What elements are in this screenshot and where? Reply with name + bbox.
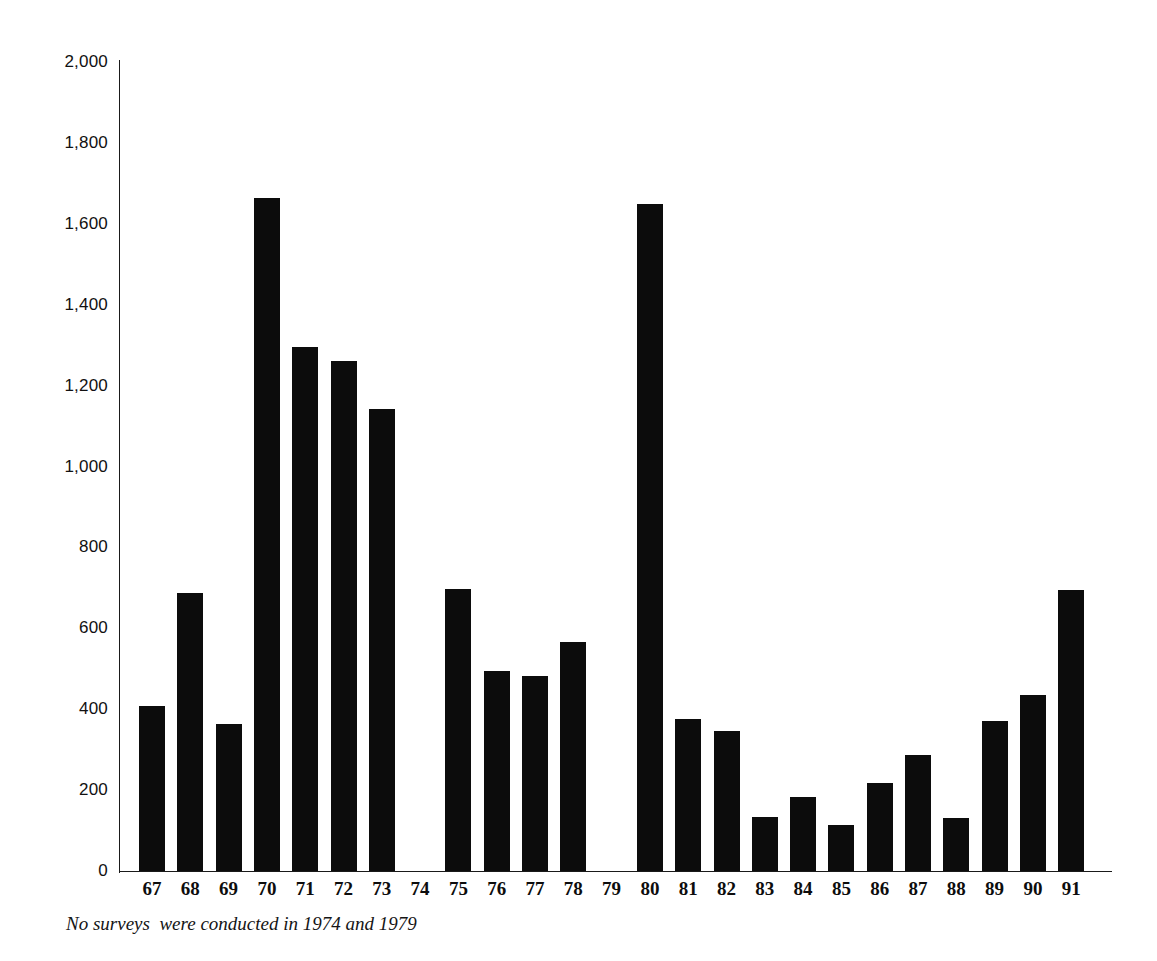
bar <box>369 409 395 871</box>
x-axis-tick: 73 <box>363 877 401 903</box>
x-axis-tick: 71 <box>286 877 324 903</box>
x-axis-tick: 76 <box>478 877 516 903</box>
x-axis-tick: 72 <box>324 877 362 903</box>
x-axis-tick: 82 <box>707 877 745 903</box>
bar-chart-figure: 02004006008001,0001,2001,4001,6001,8002,… <box>0 0 1157 961</box>
bar <box>522 676 548 871</box>
plot-area: 02004006008001,0001,2001,4001,6001,8002,… <box>0 0 1157 961</box>
x-axis-tick-label: 85 <box>822 877 860 901</box>
bar <box>790 797 816 871</box>
x-axis-tick-label: 69 <box>209 877 247 901</box>
x-axis-tick-label: 87 <box>899 877 937 901</box>
x-axis-tick-label: 83 <box>746 877 784 901</box>
x-axis-tick-label: 73 <box>363 877 401 901</box>
x-axis-tick: 86 <box>861 877 899 903</box>
bar <box>905 755 931 871</box>
x-axis-tick: 80 <box>631 877 669 903</box>
x-axis-tick: 91 <box>1052 877 1090 903</box>
x-axis-tick-label: 89 <box>975 877 1013 901</box>
x-axis-tick-label: 75 <box>439 877 477 901</box>
x-axis-tick-label: 82 <box>707 877 745 901</box>
x-axis-tick-label: 71 <box>286 877 324 901</box>
bar <box>484 671 510 871</box>
x-axis-tick: 68 <box>171 877 209 903</box>
bar <box>139 706 165 871</box>
x-axis-tick-label: 77 <box>516 877 554 901</box>
x-axis-tick: 74 <box>401 877 439 903</box>
x-axis-tick: 84 <box>784 877 822 903</box>
x-axis-tick-label: 86 <box>861 877 899 901</box>
x-axis-tick: 88 <box>937 877 975 903</box>
bar <box>637 204 663 871</box>
x-axis-tick: 67 <box>133 877 171 903</box>
x-axis-tick-label: 79 <box>592 877 630 901</box>
x-axis-tick: 89 <box>975 877 1013 903</box>
bar <box>292 347 318 871</box>
x-axis-tick-label: 84 <box>784 877 822 901</box>
bar <box>982 721 1008 871</box>
x-axis-tick: 90 <box>1014 877 1052 903</box>
bar <box>216 724 242 871</box>
bars-layer <box>0 0 1157 961</box>
x-axis-tick-label: 68 <box>171 877 209 901</box>
chart-footnote: No surveys were conducted in 1974 and 19… <box>66 912 417 936</box>
x-axis-tick-label: 76 <box>478 877 516 901</box>
x-axis-tick: 87 <box>899 877 937 903</box>
bar <box>943 818 969 871</box>
x-axis-tick-label: 80 <box>631 877 669 901</box>
x-axis-tick-label: 81 <box>669 877 707 901</box>
x-axis-tick-label: 91 <box>1052 877 1090 901</box>
bar <box>828 825 854 871</box>
x-axis-tick: 75 <box>439 877 477 903</box>
bar <box>714 731 740 871</box>
x-axis-tick-label: 74 <box>401 877 439 901</box>
x-axis-tick: 70 <box>248 877 286 903</box>
x-axis-tick: 79 <box>592 877 630 903</box>
x-axis-tick: 69 <box>209 877 247 903</box>
x-axis-tick: 85 <box>822 877 860 903</box>
bar <box>560 642 586 871</box>
x-axis-tick: 78 <box>554 877 592 903</box>
x-axis-tick: 81 <box>669 877 707 903</box>
x-axis-tick: 83 <box>746 877 784 903</box>
bar <box>675 719 701 871</box>
x-axis-tick-label: 70 <box>248 877 286 901</box>
x-axis-tick-label: 72 <box>324 877 362 901</box>
x-axis-tick-label: 78 <box>554 877 592 901</box>
bar <box>752 817 778 871</box>
x-axis-tick-label: 90 <box>1014 877 1052 901</box>
x-axis-tick: 77 <box>516 877 554 903</box>
x-axis-tick-label: 88 <box>937 877 975 901</box>
bar <box>867 783 893 871</box>
bar <box>1058 590 1084 871</box>
bar <box>331 361 357 871</box>
bar <box>177 593 203 871</box>
bar <box>445 589 471 871</box>
bar <box>1020 695 1046 871</box>
x-axis-tick-label: 67 <box>133 877 171 901</box>
bar <box>254 198 280 871</box>
